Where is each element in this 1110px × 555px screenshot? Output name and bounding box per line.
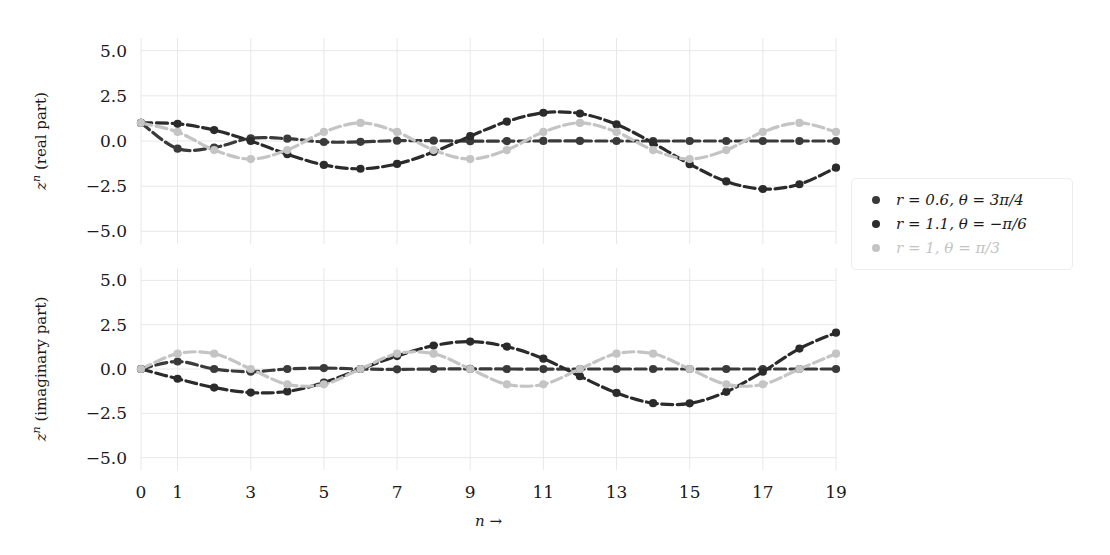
data-point-marker bbox=[576, 137, 584, 145]
y-tick-label: −5.0 bbox=[86, 221, 127, 241]
data-point-marker bbox=[832, 137, 840, 145]
data-point-marker bbox=[356, 119, 364, 127]
data-point-marker bbox=[832, 350, 840, 358]
figure: 5.02.50.0−2.5−5.0zn (real part)5.02.50.0… bbox=[0, 0, 1110, 555]
data-point-marker bbox=[466, 365, 474, 373]
data-point-marker bbox=[686, 365, 694, 373]
data-point-marker bbox=[795, 119, 803, 127]
data-point-marker bbox=[320, 138, 328, 146]
data-point-marker bbox=[576, 365, 584, 373]
data-point-marker bbox=[210, 350, 218, 358]
data-point-marker bbox=[466, 155, 474, 163]
data-point-marker bbox=[283, 146, 291, 154]
data-point-marker bbox=[795, 365, 803, 373]
data-point-marker bbox=[649, 139, 657, 147]
data-point-marker bbox=[649, 399, 657, 407]
data-point-marker bbox=[173, 350, 181, 358]
data-point-marker bbox=[173, 145, 181, 153]
data-point-marker bbox=[430, 342, 438, 350]
x-tick-label: 0 bbox=[136, 482, 147, 502]
data-point-marker bbox=[503, 146, 511, 154]
data-point-marker bbox=[173, 357, 181, 365]
y-tick-label: 5.0 bbox=[100, 41, 127, 61]
y-tick-label: 0.0 bbox=[100, 359, 127, 379]
legend-item[interactable]: r = 1, θ = π/3 bbox=[862, 236, 1062, 260]
x-tick-label: 5 bbox=[318, 482, 329, 502]
legend-item-label: r = 1, θ = π/3 bbox=[896, 239, 1000, 257]
y-axis-label: zn (real part) bbox=[30, 92, 51, 191]
data-point-marker bbox=[466, 338, 474, 346]
data-point-marker bbox=[283, 135, 291, 143]
data-point-marker bbox=[612, 120, 620, 128]
data-point-marker bbox=[210, 365, 218, 373]
data-point-marker bbox=[210, 383, 218, 391]
data-point-marker bbox=[503, 380, 511, 388]
data-point-marker bbox=[283, 380, 291, 388]
data-point-marker bbox=[503, 365, 511, 373]
x-tick-label: 13 bbox=[606, 482, 628, 502]
data-point-marker bbox=[247, 137, 255, 145]
data-point-marker bbox=[722, 137, 730, 145]
legend-marker-icon bbox=[872, 196, 880, 204]
legend-item-label: r = 0.6, θ = 3π/4 bbox=[896, 191, 1024, 209]
data-point-marker bbox=[832, 329, 840, 337]
data-point-marker bbox=[612, 389, 620, 397]
data-point-marker bbox=[430, 137, 438, 145]
y-tick-label: 2.5 bbox=[100, 315, 127, 335]
data-point-marker bbox=[393, 350, 401, 358]
data-point-marker bbox=[247, 155, 255, 163]
data-point-marker bbox=[686, 137, 694, 145]
x-tick-label: 17 bbox=[752, 482, 774, 502]
data-point-marker bbox=[832, 164, 840, 172]
data-point-marker bbox=[430, 350, 438, 358]
data-point-marker bbox=[576, 109, 584, 117]
data-point-marker bbox=[539, 380, 547, 388]
x-tick-label: 3 bbox=[245, 482, 256, 502]
data-point-marker bbox=[320, 380, 328, 388]
data-point-marker bbox=[210, 126, 218, 134]
chart-canvas: 5.02.50.0−2.5−5.0zn (real part)5.02.50.0… bbox=[0, 0, 1110, 555]
data-point-marker bbox=[576, 372, 584, 380]
data-point-marker bbox=[612, 350, 620, 358]
data-point-marker bbox=[722, 380, 730, 388]
data-point-marker bbox=[612, 137, 620, 145]
data-point-marker bbox=[393, 128, 401, 136]
data-point-marker bbox=[649, 146, 657, 154]
x-tick-label: 15 bbox=[679, 482, 701, 502]
data-point-marker bbox=[503, 117, 511, 125]
x-tick-label: 19 bbox=[825, 482, 847, 502]
data-point-marker bbox=[722, 146, 730, 154]
data-point-marker bbox=[430, 146, 438, 154]
data-point-marker bbox=[832, 365, 840, 373]
x-axis-label: n → bbox=[475, 512, 502, 530]
data-point-marker bbox=[649, 365, 657, 373]
data-point-marker bbox=[759, 368, 767, 376]
data-point-marker bbox=[795, 137, 803, 145]
legend-item-label: r = 1.1, θ = −π/6 bbox=[896, 215, 1027, 233]
data-point-marker bbox=[137, 365, 145, 373]
legend-item[interactable]: r = 0.6, θ = 3π/4 bbox=[862, 188, 1062, 212]
legend-item[interactable]: r = 1.1, θ = −π/6 bbox=[862, 212, 1062, 236]
data-point-marker bbox=[795, 180, 803, 188]
data-point-marker bbox=[247, 365, 255, 373]
data-point-marker bbox=[173, 375, 181, 383]
y-tick-label: 0.0 bbox=[100, 131, 127, 151]
data-point-marker bbox=[649, 350, 657, 358]
data-point-marker bbox=[173, 128, 181, 136]
data-point-marker bbox=[210, 146, 218, 154]
data-point-marker bbox=[686, 155, 694, 163]
data-point-marker bbox=[137, 119, 145, 127]
data-point-marker bbox=[173, 120, 181, 128]
legend-marker-icon bbox=[872, 220, 880, 228]
data-point-marker bbox=[612, 365, 620, 373]
chart-legend: r = 0.6, θ = 3π/4 r = 1.1, θ = −π/6 r = … bbox=[851, 178, 1073, 270]
x-tick-label: 9 bbox=[465, 482, 476, 502]
data-point-marker bbox=[539, 137, 547, 145]
data-point-marker bbox=[320, 128, 328, 136]
data-point-marker bbox=[539, 355, 547, 363]
data-point-marker bbox=[430, 365, 438, 373]
data-point-marker bbox=[612, 128, 620, 136]
y-axis-label: zn (imaginary part) bbox=[30, 297, 51, 443]
data-point-marker bbox=[759, 128, 767, 136]
data-point-marker bbox=[539, 128, 547, 136]
